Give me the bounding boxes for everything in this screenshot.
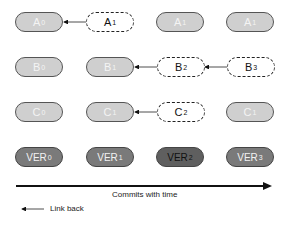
node-subscript: 0 bbox=[42, 109, 46, 116]
node-subscript: 3 bbox=[259, 154, 263, 161]
node-label: B bbox=[245, 61, 252, 73]
node-label: B bbox=[104, 61, 111, 73]
node-label: A bbox=[33, 16, 40, 28]
node-ver2: VER2 bbox=[156, 147, 204, 167]
node-a0: A0 bbox=[15, 12, 63, 32]
node-subscript: 1 bbox=[252, 19, 256, 26]
node-subscript: 0 bbox=[48, 154, 52, 161]
node-b3-new: B3 bbox=[227, 57, 275, 77]
node-label: C bbox=[244, 106, 252, 118]
node-ver3: VER3 bbox=[226, 147, 274, 167]
node-label: C bbox=[175, 106, 183, 118]
node-b1: B1 bbox=[86, 57, 134, 77]
node-ver1: VER1 bbox=[86, 147, 134, 167]
node-ver0: VER0 bbox=[15, 147, 63, 167]
node-c0: C0 bbox=[15, 102, 63, 122]
node-subscript: 1 bbox=[253, 109, 257, 116]
node-label: C bbox=[33, 106, 41, 118]
node-subscript: 1 bbox=[119, 154, 123, 161]
node-label: C bbox=[104, 106, 112, 118]
node-label: VER bbox=[237, 152, 258, 163]
node-a1-new: A1 bbox=[86, 12, 134, 32]
node-subscript: 2 bbox=[183, 64, 187, 71]
node-label: VER bbox=[26, 152, 47, 163]
node-c2-new: C2 bbox=[157, 102, 205, 122]
node-subscript: 0 bbox=[41, 64, 45, 71]
timeline-label: Commits with time bbox=[112, 190, 177, 199]
node-subscript: 0 bbox=[41, 19, 45, 26]
node-c1: C1 bbox=[226, 102, 274, 122]
node-label: A bbox=[104, 16, 111, 28]
node-a1: A1 bbox=[226, 12, 274, 32]
node-label: VER bbox=[167, 152, 188, 163]
node-subscript: 1 bbox=[113, 109, 117, 116]
node-label: B bbox=[175, 61, 182, 73]
node-subscript: 3 bbox=[253, 64, 257, 71]
node-subscript: 2 bbox=[184, 109, 188, 116]
node-subscript: 1 bbox=[112, 19, 116, 26]
node-b0: B0 bbox=[15, 57, 63, 77]
node-label: A bbox=[244, 16, 251, 28]
timeline-arrowhead-icon bbox=[263, 182, 272, 190]
node-label: VER bbox=[97, 152, 118, 163]
node-subscript: 1 bbox=[112, 64, 116, 71]
legend-label: Link back bbox=[50, 204, 84, 213]
node-label: B bbox=[33, 61, 40, 73]
node-c1: C1 bbox=[86, 102, 134, 122]
node-label: A bbox=[174, 16, 181, 28]
node-subscript: 1 bbox=[182, 19, 186, 26]
node-subscript: 2 bbox=[189, 154, 193, 161]
node-b2-new: B2 bbox=[157, 57, 205, 77]
node-a1: A1 bbox=[156, 12, 204, 32]
